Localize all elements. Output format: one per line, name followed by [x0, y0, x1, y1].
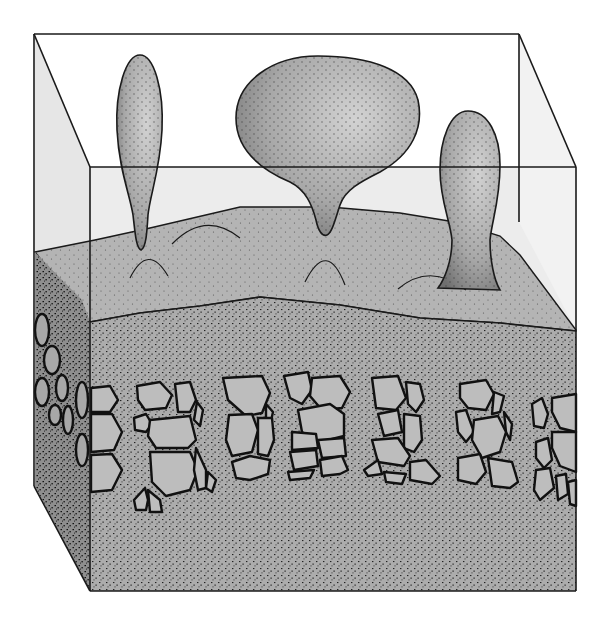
salt-diapir-block-diagram [0, 0, 606, 627]
diagram-canvas [0, 0, 606, 627]
